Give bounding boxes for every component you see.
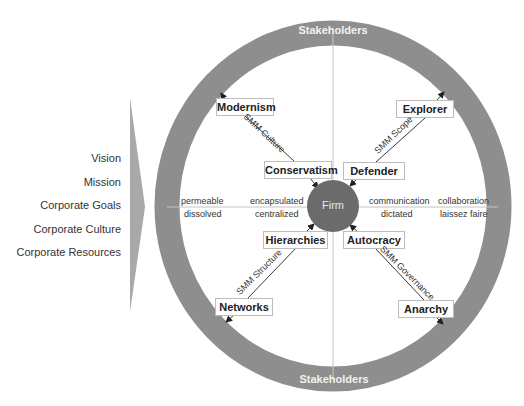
firm-label: Firm: [308, 199, 358, 211]
label-laissez-faire: laissez faire: [440, 209, 488, 219]
strategy-inputs-list: Vision Mission Corporate Goals Corporate…: [0, 150, 121, 268]
box-anarchy: Anarchy: [398, 300, 454, 318]
input-arrow-shape: [130, 98, 145, 312]
label-dissolved: dissolved: [184, 209, 222, 219]
box-networks: Networks: [215, 298, 273, 316]
list-item-mission: Mission: [0, 174, 121, 198]
stakeholders-top-label: Stakeholders: [283, 24, 383, 36]
list-item-corporate-goals: Corporate Goals: [0, 197, 121, 221]
list-item-corporate-culture: Corporate Culture: [0, 221, 121, 245]
scope-arrow: [437, 92, 444, 100]
label-centralized: centralized: [255, 209, 299, 219]
label-permeable: permeable: [181, 196, 224, 206]
label-communication: communication: [369, 196, 430, 206]
box-hierarchies: Hierarchies: [263, 231, 328, 249]
hierarchies-arrow: [307, 224, 314, 231]
list-item-corporate-resources: Corporate Resources: [0, 244, 121, 268]
box-autocracy: Autocracy: [343, 231, 405, 249]
label-collaboration: collaboration: [438, 196, 489, 206]
label-encapsulated: encapsulated: [250, 196, 304, 206]
networks-arrow: [226, 315, 234, 322]
stakeholders-bottom-label: Stakeholders: [284, 373, 384, 385]
label-dictated: dictated: [381, 209, 413, 219]
box-conservatism: Conservatism: [264, 161, 332, 179]
box-defender: Defender: [343, 162, 405, 180]
defender-arrow: [350, 179, 357, 186]
list-item-vision: Vision: [0, 150, 121, 174]
